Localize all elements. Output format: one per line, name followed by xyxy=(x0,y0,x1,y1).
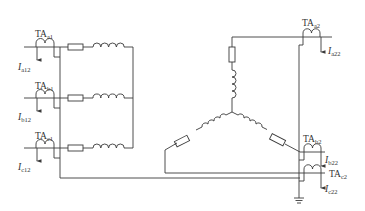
current-label-b22: Ib22 xyxy=(324,155,338,166)
ct-label-a2: TAa2 xyxy=(302,18,320,29)
inductor-star-right-icon xyxy=(232,112,267,130)
right-phase-a-branch xyxy=(229,29,332,112)
ct-coil-c2-icon xyxy=(304,165,321,173)
resistor-c-icon xyxy=(68,145,83,151)
resistor-star-right-icon xyxy=(270,134,286,146)
resistor-star-a-icon xyxy=(229,47,235,62)
circuit-diagram: TAa1 TAb1 TAc1 Ia12 Ib12 Ic12 TAa2 TAb2 … xyxy=(0,0,365,211)
resistor-star-left-icon xyxy=(174,135,189,147)
right-phase-b-branch xyxy=(299,144,325,166)
ct-coil-a2-icon xyxy=(303,29,320,37)
resistor-a-icon xyxy=(68,44,83,50)
inductor-star-a-icon xyxy=(232,70,236,98)
ct-label-c1: TAc1 xyxy=(35,131,53,142)
current-label-a12: Ia12 xyxy=(17,62,31,73)
current-label-c12: Ic12 xyxy=(17,162,31,173)
star-left-leg xyxy=(165,112,300,173)
inductor-star-left-icon xyxy=(196,112,232,130)
left-phase-b-branch xyxy=(24,90,133,112)
ct-label-b2: TAb2 xyxy=(303,134,321,145)
star-right-leg xyxy=(232,112,300,152)
ct-label-a1: TAa1 xyxy=(35,29,53,40)
ground-icon xyxy=(294,198,304,203)
inductor-b-icon xyxy=(93,94,124,98)
left-phase-a-branch xyxy=(24,39,133,61)
inductor-a-icon xyxy=(93,43,124,47)
current-label-c22: Ic22 xyxy=(324,184,338,195)
inductor-c-icon xyxy=(93,144,124,148)
left-phase-c-branch xyxy=(24,140,133,162)
resistor-b-icon xyxy=(68,95,83,101)
current-label-a22: Ia22 xyxy=(327,46,341,57)
ct-label-c2: TAc2 xyxy=(329,169,347,180)
right-phase-c-branch xyxy=(299,165,325,188)
ct-label-b1: TAb1 xyxy=(35,81,53,92)
current-label-b12: Ib12 xyxy=(17,112,31,123)
